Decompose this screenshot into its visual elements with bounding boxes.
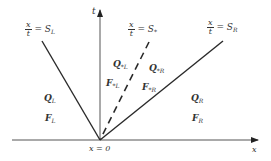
region-FsL: F*L [106,79,119,89]
left-wave-line [42,41,100,140]
region-QsL: Q*L [113,60,128,70]
x-axis-label: x [252,146,257,154]
region-FR: FR [192,114,203,124]
contact-wave-label: xt = S* [128,21,157,38]
right-wave-label: xt = SR [207,19,238,36]
t-axis-label: t [92,7,96,16]
region-FL: FL [45,114,55,124]
origin-label: x = 0 [89,145,110,153]
region-QL: QL [44,94,56,104]
left-wave-label: xt = SL [25,21,55,38]
region-QsR: Q*R [149,64,164,74]
right-wave-line [100,41,223,140]
region-FsR: F*R [142,83,156,93]
region-QR: QR [191,94,203,104]
riemann-fan-diagram: t x x = 0 xt = SL xt = S* xt = SR QL FL … [0,0,271,161]
